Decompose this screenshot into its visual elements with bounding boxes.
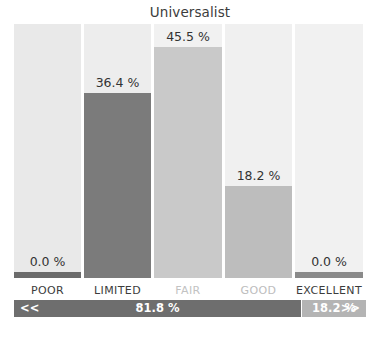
plot-area: 0.0 %36.4 %45.5 %18.2 %0.0 % bbox=[14, 24, 366, 278]
bar-value-label: 36.4 % bbox=[84, 75, 151, 90]
bar bbox=[154, 47, 222, 278]
bar-column: 45.5 % bbox=[154, 24, 222, 278]
bar bbox=[295, 272, 363, 278]
summary-segment: >>18.2 % bbox=[302, 300, 366, 317]
summary-bar: <<81.8 %>>18.2 % bbox=[14, 300, 366, 317]
bar-column: 0.0 % bbox=[295, 24, 363, 278]
bar-track bbox=[14, 24, 81, 278]
bar bbox=[14, 272, 81, 278]
bar-value-label: 0.0 % bbox=[295, 254, 363, 269]
category-axis: POORLIMITEDFAIRGOODEXCELLENT bbox=[14, 282, 366, 299]
bar-value-label: 18.2 % bbox=[225, 168, 292, 183]
chart-container: Universalist 0.0 %36.4 %45.5 %18.2 %0.0 … bbox=[0, 0, 380, 342]
bar bbox=[225, 186, 292, 278]
bar-track bbox=[295, 24, 363, 278]
summary-value-label: 81.8 % bbox=[14, 300, 301, 317]
summary-segment: <<81.8 % bbox=[14, 300, 301, 317]
axis-label-limited: LIMITED bbox=[84, 282, 151, 299]
bar-value-label: 45.5 % bbox=[154, 29, 222, 44]
chart-title: Universalist bbox=[0, 4, 380, 20]
bar-column: 18.2 % bbox=[225, 24, 292, 278]
axis-label-poor: POOR bbox=[14, 282, 81, 299]
bar-value-label: 0.0 % bbox=[14, 254, 81, 269]
summary-value-label: 18.2 % bbox=[302, 300, 366, 317]
axis-label-excellent: EXCELLENT bbox=[295, 282, 363, 299]
bar-column: 36.4 % bbox=[84, 24, 151, 278]
axis-label-good: GOOD bbox=[225, 282, 292, 299]
bar bbox=[84, 93, 151, 278]
bar-column: 0.0 % bbox=[14, 24, 81, 278]
axis-label-fair: FAIR bbox=[154, 282, 222, 299]
